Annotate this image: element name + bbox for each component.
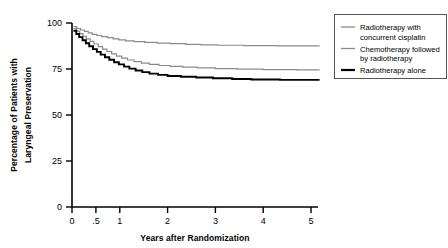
legend-label-0-line2: concurrent cisplatin [360,33,425,42]
chart-legend: Radiotherapy withconcurrent cisplatinChe… [335,15,447,79]
y-tick-label: 75 [52,64,62,74]
y-axis-title-line1: Percentage of Patients with [9,58,19,172]
legend-label-1-line2: by radiotherapy [360,54,413,63]
survival-curve-chart: Percentage of Patients with Laryngeal Pr… [0,0,448,248]
x-axis-title: Years after Randomization [140,233,249,243]
y-tick-label: 50 [52,110,62,120]
legend-label-1: Chemotherapy followed [360,45,440,54]
chart-figure: Percentage of Patients with Laryngeal Pr… [0,0,448,248]
x-tick-label: 3 [213,216,218,226]
x-tick-label: 5 [308,216,313,226]
y-tick-label: 25 [52,156,62,166]
x-tick-label: .5 [92,216,100,226]
x-tick-label: 0 [69,216,74,226]
y-tick-label: 100 [47,18,62,28]
legend-label-2: Radiotherapy alone [360,66,426,75]
legend-label-0: Radiotherapy with [360,23,421,32]
x-tick-label: 1 [117,216,122,226]
x-tick-label: 2 [165,216,170,226]
y-axis-title-line2: Laryngeal Preservation [23,67,33,163]
y-tick-label: 0 [57,202,62,212]
x-tick-label: 4 [261,216,266,226]
